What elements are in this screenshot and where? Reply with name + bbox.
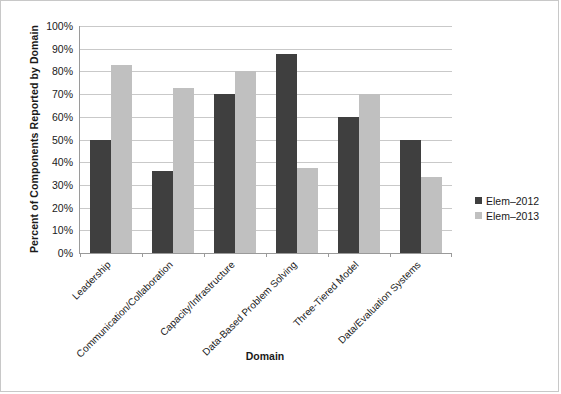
y-axis-tick-label: 20% [35, 203, 73, 213]
bar-group [142, 26, 204, 253]
bar[interactable] [338, 117, 359, 253]
y-axis-tick-label: 80% [35, 66, 73, 76]
legend-label: Elem–2012 [486, 195, 539, 207]
bar[interactable] [214, 94, 235, 253]
legend-item[interactable]: Elem–2013 [475, 208, 555, 223]
y-axis-tick-label: 30% [35, 180, 73, 190]
y-axis-tick-label: 50% [35, 135, 73, 145]
bar[interactable] [400, 140, 421, 254]
y-axis-tick-label: 40% [35, 157, 73, 167]
x-axis-title: Domain [79, 350, 451, 362]
x-axis-label-slot: Data/Evaluation Systems [389, 255, 451, 350]
y-axis-tick-label: 10% [35, 225, 73, 235]
y-axis-tick-label: 90% [35, 44, 73, 54]
legend: Elem–2012Elem–2013 [475, 193, 555, 223]
bar[interactable] [152, 171, 173, 253]
y-axis-tick-label: 60% [35, 112, 73, 122]
y-axis-tick-label: 70% [35, 89, 73, 99]
x-axis-category-labels: LeadershipCommunication/CollaborationCap… [79, 255, 451, 350]
legend-label: Elem–2013 [486, 210, 539, 222]
legend-swatch-icon [475, 212, 482, 219]
bar-group [80, 26, 142, 253]
x-axis-tick-mark [451, 253, 452, 257]
legend-item[interactable]: Elem–2012 [475, 193, 555, 208]
bar-chart: Percent of Components Reported by Domain… [0, 0, 559, 392]
y-axis-tick-label: 0% [35, 248, 73, 258]
legend-swatch-icon [475, 197, 482, 204]
y-axis-tick-labels: 100%90%80%70%60%50%40%30%20%10%0% [35, 19, 73, 253]
bar[interactable] [235, 71, 256, 253]
bar[interactable] [90, 140, 111, 254]
bar[interactable] [173, 88, 194, 253]
y-axis-tick-label: 100% [35, 21, 73, 31]
bar[interactable] [111, 65, 132, 253]
